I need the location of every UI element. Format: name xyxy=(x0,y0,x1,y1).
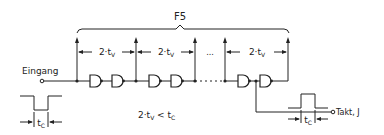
gate-4 xyxy=(171,75,182,87)
gate-1 xyxy=(90,75,101,87)
delay-chain-diagram: F5 2·tV 2·tV ... 2·tV Eingang xyxy=(0,0,384,135)
output-label: Takt, J xyxy=(335,108,360,117)
input-terminal xyxy=(40,79,44,83)
gate-5 xyxy=(238,75,249,87)
group-brace xyxy=(77,25,289,33)
output-terminal xyxy=(331,110,335,114)
segment-label-n: 2·tV xyxy=(249,47,266,58)
segment-ellipsis: ... xyxy=(206,48,214,57)
gates xyxy=(90,75,273,87)
gate-2 xyxy=(112,75,123,87)
segment-label-2: 2·tV xyxy=(158,47,175,58)
svg-text:2·tV: 2·tV xyxy=(99,47,116,58)
svg-text:tC: tC xyxy=(37,118,45,129)
gate-3 xyxy=(149,75,160,87)
segment-label-1: 2·tV xyxy=(99,47,116,58)
gate-6 xyxy=(260,75,271,87)
timing-condition: 2·tV < tC xyxy=(138,110,175,121)
svg-text:tC: tC xyxy=(304,115,312,126)
group-label: F5 xyxy=(174,11,186,22)
input-label: Eingang xyxy=(22,66,59,76)
svg-text:2·tV: 2·tV xyxy=(158,47,175,58)
output-pulse-width-label: tC xyxy=(304,115,312,126)
input-pulse-width-label: tC xyxy=(37,118,45,129)
svg-text:2·tV: 2·tV xyxy=(249,47,266,58)
svg-text:2·tV < tC: 2·tV < tC xyxy=(138,110,175,121)
tap-lines xyxy=(75,37,290,81)
